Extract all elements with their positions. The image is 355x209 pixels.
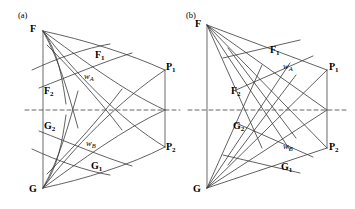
panel-a-label-G1-text: G <box>91 160 99 171</box>
panel-b-label-F2: F2 <box>231 86 241 98</box>
panel-a-band-F1 <box>47 45 122 130</box>
panel-a-label-G-text: G <box>29 183 37 194</box>
figure-container: (a) F G P1 P2 F1 F2 G2 G1 wA wB (b) F G … <box>0 0 355 209</box>
panel-b-label-F-text: F <box>195 18 201 29</box>
panel-a-label-F2: F2 <box>44 86 54 98</box>
panel-a-label-G2-text: G <box>44 120 52 131</box>
panel-b-label-wB: wB <box>283 142 293 152</box>
panel-a-label-wA-sub: A <box>90 75 94 82</box>
panel-a-label-wB-sub: B <box>92 142 96 149</box>
panel-b-label-P2: P2 <box>329 142 339 154</box>
panel-b-label-wA: wA <box>283 62 293 72</box>
panel-a-tag: (a) <box>18 11 27 20</box>
panel-b-label-F: F <box>195 19 201 29</box>
panel-a-curve-F-M <box>43 31 165 110</box>
panel-b-ray-F-inner1 <box>207 25 290 150</box>
panel-a-label-F2-sub: 2 <box>50 90 54 98</box>
panel-a-label-G2: G2 <box>44 121 55 133</box>
panel-b-label-G: G <box>193 184 201 194</box>
panel-b-ray-G-P2 <box>207 148 327 188</box>
panel-b-label-wA-sub: A <box>289 65 293 72</box>
panel-b-label-G1-sub: 1 <box>289 166 293 174</box>
panel-a-curve-F-P2 <box>43 31 165 147</box>
panel-b-label-G2-sub: 2 <box>241 125 245 133</box>
panel-a-label-P1: P1 <box>166 62 176 74</box>
panel-a-label-P2: P2 <box>166 142 176 154</box>
panel-a-label-F1: F1 <box>95 50 105 62</box>
panel-a-label-G1: G1 <box>91 161 102 173</box>
panel-b-label-G-text: G <box>193 183 201 194</box>
panel-a-label-P2-sub: 2 <box>172 146 176 154</box>
panel-a-label-F-text: F <box>30 23 36 34</box>
panel-b-seg-wA-mid <box>236 56 313 90</box>
panel-a-label-F1-sub: 1 <box>101 54 105 62</box>
panel-a-label-wB: wB <box>86 139 96 149</box>
panel-b-ray-G-M <box>207 110 327 188</box>
panel-b-label-G2-text: G <box>233 120 241 131</box>
panel-b-label-P2-sub: 2 <box>335 146 339 154</box>
panel-b-label-P1: P1 <box>329 62 339 74</box>
panel-b-ray-G-inner1 <box>207 63 290 188</box>
panel-a-curve-G-M <box>43 110 165 188</box>
panel-a-label-G2-sub: 2 <box>52 125 56 133</box>
panel-b-label-P1-sub: 1 <box>335 66 339 74</box>
panel-a-band-G1 <box>47 89 122 174</box>
panel-a-label-G1-sub: 1 <box>99 165 103 173</box>
panel-b-label-F2-sub: 2 <box>237 90 241 98</box>
panel-a-label-G: G <box>29 184 37 194</box>
panel-b-label-F1-sub: 1 <box>276 49 280 57</box>
figure-canvas <box>0 0 355 209</box>
panel-b-label-G1: G1 <box>281 162 292 174</box>
panel-b-label-F1: F1 <box>270 45 280 57</box>
panel-b-geometry <box>207 25 327 188</box>
panel-b-label-G2: G2 <box>233 121 244 133</box>
panel-a-curve-G-P2 <box>43 147 165 188</box>
panel-a-label-wA: wA <box>84 72 94 82</box>
panel-a-label-F: F <box>30 24 36 34</box>
panel-b-label-G1-text: G <box>281 161 289 172</box>
panel-a-curve-G-P1 <box>43 70 165 188</box>
panel-b-label-wB-sub: B <box>289 145 293 152</box>
panel-b-seg-wB-mid <box>236 123 313 157</box>
panel-a-label-P1-sub: 1 <box>172 66 176 74</box>
